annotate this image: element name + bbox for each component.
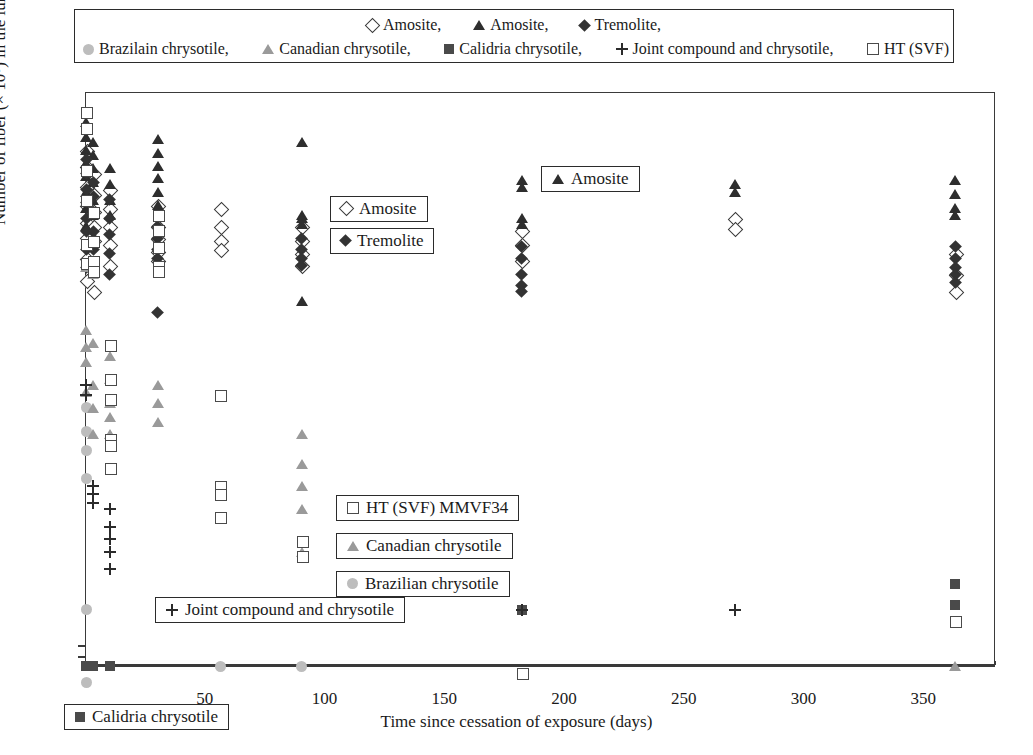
square-open-icon (347, 502, 359, 514)
triangle-dark-icon (473, 20, 485, 30)
data-point (151, 306, 164, 319)
data-point (81, 604, 92, 615)
circle-grey-icon (347, 578, 358, 589)
data-point (950, 616, 962, 628)
data-point (296, 219, 308, 229)
annotation-label: Amosite (571, 169, 629, 189)
data-point (729, 604, 741, 616)
data-point (153, 210, 165, 222)
data-point (81, 677, 92, 688)
data-point (88, 236, 100, 248)
data-point (104, 179, 116, 189)
annotation-label: Brazilian chrysotile (365, 574, 499, 594)
data-point (516, 604, 528, 616)
data-point (296, 429, 308, 439)
legend-item-amosite-open: Amosite, (367, 17, 441, 33)
triangle-grey-icon (347, 541, 359, 551)
data-point (215, 512, 227, 524)
data-point (950, 579, 960, 589)
circle-grey-icon (83, 44, 94, 55)
legend-row-1: Amosite, Amosite, Tremolite, (81, 13, 947, 37)
chart-legend: Amosite, Amosite, Tremolite, Brazilain c… (74, 9, 954, 63)
annotation-label: Canadian chrysotile (366, 536, 502, 556)
annotation-tremolite: Tremolite (330, 228, 434, 254)
data-point (105, 661, 115, 671)
cut-off-caption (0, 0, 1033, 9)
annotation-brazilian: Brazilian chrysotile (336, 571, 510, 597)
annotation-label: Amosite (359, 199, 417, 219)
data-point (949, 661, 961, 671)
x-tick-label: 150 (414, 690, 474, 707)
data-point (105, 440, 117, 452)
data-point (950, 600, 960, 610)
data-point (152, 380, 164, 390)
legend-item-calidria: Calidria chrysotile, (444, 41, 582, 57)
data-points-canvas (86, 93, 994, 664)
data-point (152, 187, 164, 197)
x-tick-label: 250 (654, 690, 714, 707)
data-point (104, 521, 116, 533)
data-point (729, 187, 741, 197)
legend-label: HT (SVF) (884, 41, 949, 57)
legend-item-ht-svf: HT (SVF) (867, 41, 949, 57)
data-point (296, 137, 308, 147)
annotation-ht-svf: HT (SVF) MMVF34 (336, 495, 519, 521)
diamond-open-icon (365, 17, 381, 33)
data-point (87, 338, 99, 348)
data-point (80, 325, 92, 335)
data-point (215, 661, 226, 672)
data-point (87, 497, 99, 509)
data-point (728, 222, 744, 238)
data-point (104, 412, 116, 422)
data-point (105, 463, 117, 475)
data-point (105, 394, 117, 406)
data-point (296, 481, 308, 491)
data-point (296, 661, 307, 672)
data-point (152, 161, 164, 171)
data-point (104, 163, 116, 173)
legend-label: Joint compound and chrysotile, (633, 41, 834, 57)
data-point (152, 417, 164, 427)
data-point (81, 165, 93, 177)
data-point (215, 390, 227, 402)
legend-label: Amosite, (490, 17, 548, 33)
data-point (104, 546, 116, 558)
data-point (104, 533, 116, 545)
data-point (88, 661, 98, 671)
data-point (213, 202, 229, 218)
data-point (105, 374, 117, 386)
legend-row-2: Brazilain chrysotile, Canadian chrysotil… (81, 37, 951, 61)
x-tickmark (995, 661, 996, 665)
data-point (153, 225, 165, 237)
legend-label: Calidria chrysotile, (459, 41, 582, 57)
legend-item-brazilain: Brazilain chrysotile, (83, 41, 229, 57)
data-point (87, 403, 99, 413)
annotation-label: HT (SVF) MMVF34 (366, 498, 508, 518)
data-point (296, 504, 308, 514)
annotation-label: Tremolite (357, 231, 423, 251)
x-tick-label: 100 (294, 690, 354, 707)
data-point (80, 357, 92, 367)
annotation-label: Calidria chrysotile (92, 707, 218, 727)
data-point (81, 107, 93, 119)
square-fill-icon (75, 712, 85, 722)
data-point (297, 551, 309, 563)
legend-label: Amosite, (383, 17, 441, 33)
data-point (104, 563, 116, 575)
legend-label: Tremolite, (594, 17, 661, 33)
data-point (516, 182, 528, 192)
data-point (87, 429, 99, 439)
data-point (297, 536, 309, 548)
data-point (152, 200, 164, 210)
data-point (81, 123, 93, 135)
annotation-label: Joint compound and chrysotile (185, 600, 394, 620)
triangle-dark-icon (552, 174, 564, 184)
data-point (105, 340, 117, 352)
diamond-fill-icon (339, 234, 352, 247)
data-point (88, 207, 100, 219)
x-tick-label: 300 (773, 690, 833, 707)
data-point (517, 668, 529, 680)
data-point (80, 389, 92, 401)
annotation-amosite-filled: Amosite (541, 166, 640, 192)
legend-item-canadian: Canadian chrysotile, (262, 41, 411, 57)
